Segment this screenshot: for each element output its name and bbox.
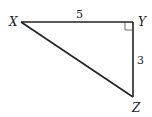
side-length-xy: 5	[76, 8, 83, 21]
side-length-yz: 3	[137, 54, 144, 67]
triangle-diagram: X Y Z 5 3	[0, 0, 152, 117]
vertex-label-x: X	[8, 15, 18, 29]
right-angle-marker	[125, 22, 133, 30]
triangle	[21, 22, 133, 97]
vertex-label-z: Z	[131, 101, 141, 115]
side-xz	[21, 22, 133, 97]
vertex-label-y: Y	[138, 15, 147, 29]
